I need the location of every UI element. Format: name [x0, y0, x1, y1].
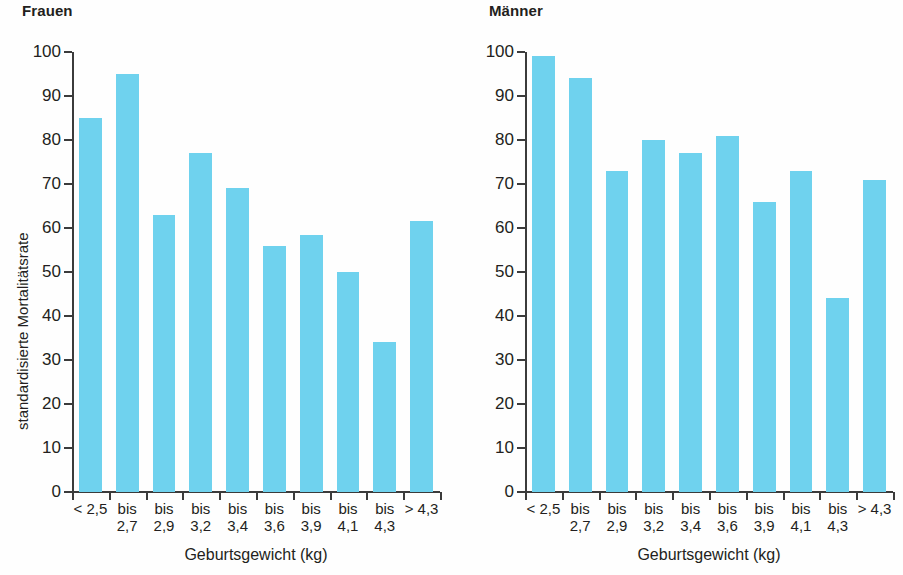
bar-slot [783, 52, 820, 492]
y-axis-tick [64, 51, 72, 53]
category-labels: < 2,5bis 2,7bis 2,9bis 3,2bis 3,4bis 3,6… [72, 500, 440, 534]
y-axis-tick-label: 90 [495, 87, 514, 104]
y-axis-tick-label: 0 [52, 483, 61, 500]
panel-title: Frauen [22, 2, 73, 19]
x-axis-tick [293, 492, 295, 500]
x-axis-tick [709, 492, 711, 500]
bar-slot [403, 52, 440, 492]
x-axis-category-label: bis 3,6 [256, 500, 293, 534]
y-axis-tick-label: 80 [495, 131, 514, 148]
bar [642, 140, 665, 492]
y-axis-tick-label: 60 [495, 219, 514, 236]
x-axis-tick [366, 492, 368, 500]
x-axis-tick [182, 492, 184, 500]
y-axis-tick [64, 491, 72, 493]
y-axis-tick-label: 20 [495, 395, 514, 412]
x-axis-tick [893, 492, 895, 500]
bar [532, 56, 555, 492]
bar-slot [256, 52, 293, 492]
bar-slot [819, 52, 856, 492]
category-labels: < 2,5bis 2,7bis 2,9bis 3,2bis 3,4bis 3,6… [525, 500, 893, 534]
y-axis-tick [517, 491, 525, 493]
y-axis-tick [64, 315, 72, 317]
x-axis-tick [819, 492, 821, 500]
x-axis-tick [146, 492, 148, 500]
plot-area-frauen: 1009080706050403020100 [72, 52, 440, 492]
y-axis-tick-label: 50 [42, 263, 61, 280]
y-axis-tick [517, 403, 525, 405]
x-axis-category-label: < 2,5 [72, 500, 109, 534]
bar-slot [146, 52, 183, 492]
bar [300, 235, 323, 492]
y-axis-tick [517, 359, 525, 361]
bar-slot [856, 52, 893, 492]
y-axis-tick-label: 40 [42, 307, 61, 324]
x-axis-tick [440, 492, 442, 500]
x-axis-tick [109, 492, 111, 500]
y-axis-tick [64, 227, 72, 229]
figure-canvas: Frauen standardisierte Mortalitätsrate 1… [0, 0, 903, 575]
y-axis-tick [64, 447, 72, 449]
bar-slot [182, 52, 219, 492]
y-axis-tick [517, 447, 525, 449]
panel-maenner: Männer standardisierte Mortalitätsrate 1… [451, 0, 903, 575]
x-axis-title: Geburtsgewicht (kg) [525, 546, 893, 564]
bar [373, 342, 396, 492]
y-axis-tick-label: 100 [486, 43, 514, 60]
bar-slot [109, 52, 146, 492]
y-axis-tick [517, 139, 525, 141]
x-axis-category-label: bis 2,9 [599, 500, 636, 534]
bar-slot [72, 52, 109, 492]
bar [569, 78, 592, 492]
panel-title: Männer [489, 2, 543, 19]
y-axis-tick-label: 0 [505, 483, 514, 500]
y-axis-tick [64, 139, 72, 141]
x-axis-tick [403, 492, 405, 500]
y-axis-tick [64, 271, 72, 273]
y-axis-tick [517, 183, 525, 185]
bar-group [72, 52, 440, 492]
y-axis-tick-label: 70 [495, 175, 514, 192]
bar-slot [525, 52, 562, 492]
x-axis-tick [635, 492, 637, 500]
x-axis-tick [72, 492, 74, 500]
bar-slot [293, 52, 330, 492]
x-axis-category-label: > 4,3 [856, 500, 893, 534]
bar [863, 180, 886, 492]
y-axis-tick [517, 315, 525, 317]
y-axis-tick-label: 20 [42, 395, 61, 412]
x-axis-tick [672, 492, 674, 500]
bar-slot [219, 52, 256, 492]
y-axis-tick-label: 90 [42, 87, 61, 104]
bar-slot [709, 52, 746, 492]
y-axis-title: standardisierte Mortalitätsrate [14, 232, 31, 430]
bar-slot [672, 52, 709, 492]
x-axis-category-label: bis 3,4 [672, 500, 709, 534]
x-axis-category-label: > 4,3 [403, 500, 440, 534]
bar [263, 246, 286, 492]
bar [410, 221, 433, 492]
bar [790, 171, 813, 492]
x-axis-category-label: bis 3,2 [182, 500, 219, 534]
x-axis-category-label: bis 3,2 [635, 500, 672, 534]
y-axis-tick [64, 359, 72, 361]
bar [79, 118, 102, 492]
x-axis-category-label: bis 3,4 [219, 500, 256, 534]
bar [189, 153, 212, 492]
x-axis-category-label: bis 4,1 [783, 500, 820, 534]
x-axis-category-label: bis 4,1 [330, 500, 367, 534]
x-axis-title: Geburtsgewicht (kg) [72, 546, 440, 564]
y-axis-tick-label: 50 [495, 263, 514, 280]
bar-slot [746, 52, 783, 492]
bar [679, 153, 702, 492]
y-axis-tick-label: 30 [495, 351, 514, 368]
x-axis-category-label: bis 2,7 [562, 500, 599, 534]
y-axis-tick [517, 227, 525, 229]
y-axis-tick [64, 95, 72, 97]
bar [716, 136, 739, 492]
bar [226, 188, 249, 492]
y-axis-tick [517, 51, 525, 53]
x-axis-category-label: bis 4,3 [819, 500, 856, 534]
y-axis-tick [517, 271, 525, 273]
bar [153, 215, 176, 492]
